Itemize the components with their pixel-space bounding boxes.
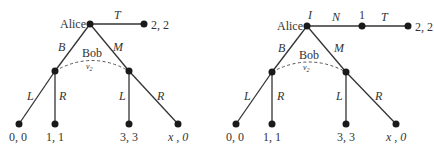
edge-LL — [19, 71, 55, 124]
payoff-top: 2, 2 — [151, 18, 169, 32]
action-label-RL: L — [335, 89, 343, 103]
terminal-node-top — [141, 21, 148, 28]
payoff-lr: 1, 1 — [46, 130, 64, 144]
player-label-bob: Bob — [82, 46, 102, 60]
payoff-rl: 3, 3 — [337, 130, 355, 144]
payoff-top: 2, 2 — [415, 20, 433, 34]
action-label-RL: L — [118, 89, 126, 103]
payoff-rr: x , 0 — [167, 130, 188, 144]
payoff-rl: 3, 3 — [120, 130, 138, 144]
action-label-RR: R — [156, 89, 165, 103]
action-label-LL: L — [26, 89, 34, 103]
info-set-label: ν2 — [303, 63, 310, 73]
player-label-alice: Alice — [60, 17, 86, 31]
bob-node-right — [126, 68, 133, 75]
middle-node — [359, 23, 366, 30]
terminal-node-ll — [233, 121, 240, 128]
edge-RR — [346, 72, 396, 124]
action-label-LL: L — [243, 89, 251, 103]
terminal-node-rr — [175, 121, 182, 128]
left-game-tree: Alice T 2, 2 B M Bob ν2 L R L R 0, 0 1, … — [9, 8, 188, 144]
info-set-subscript: 2 — [307, 67, 310, 73]
bob-node-left — [52, 68, 59, 75]
payoff-ll: 0, 0 — [9, 130, 27, 144]
action-label-RR: R — [374, 89, 383, 103]
right-game-tree: Alice I N 1 T 2, 2 B M Bob ν2 L R L R 0,… — [226, 8, 433, 144]
info-set-label: ν2 — [86, 62, 93, 72]
bob-node-left — [269, 69, 276, 76]
terminal-node-rr — [393, 121, 400, 128]
action-label-T: T — [114, 8, 122, 22]
player-label-alice: Alice — [277, 19, 303, 33]
terminal-node-lr — [269, 121, 276, 128]
edge-LL — [236, 72, 272, 124]
action-label-M: M — [333, 41, 345, 55]
action-label-T: T — [381, 10, 389, 24]
action-label-LR: R — [276, 89, 285, 103]
payoff-rr: x , 0 — [385, 130, 406, 144]
action-label-B: B — [58, 40, 66, 54]
terminal-node-ll — [16, 121, 23, 128]
action-label-B: B — [278, 41, 286, 55]
terminal-node-rl — [343, 121, 350, 128]
action-label-M: M — [112, 40, 124, 54]
bob-node-right — [343, 69, 350, 76]
action-label-LR: R — [58, 89, 67, 103]
game-trees-diagram: Alice T 2, 2 B M Bob ν2 L R L R 0, 0 1, … — [0, 0, 434, 148]
terminal-node-lr — [52, 121, 59, 128]
node-label-1: 1 — [359, 8, 365, 22]
node-label-I: I — [307, 8, 313, 22]
payoff-ll: 0, 0 — [226, 130, 244, 144]
payoff-lr: 1, 1 — [263, 130, 281, 144]
alice-node — [87, 21, 94, 28]
terminal-node-top — [405, 23, 412, 30]
player-label-bob: Bob — [299, 48, 319, 62]
edge-RR — [129, 71, 178, 124]
info-set-subscript: 2 — [90, 66, 93, 72]
alice-node — [304, 23, 311, 30]
action-label-N: N — [331, 10, 341, 24]
terminal-node-rl — [126, 121, 133, 128]
